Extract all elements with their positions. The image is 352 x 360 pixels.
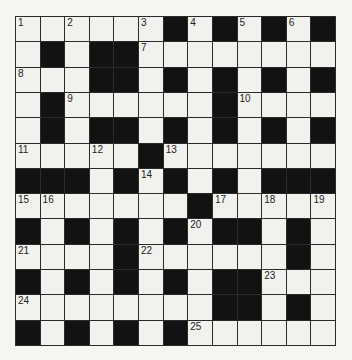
grid-cell[interactable]	[188, 93, 212, 117]
grid-cell[interactable]	[262, 295, 286, 319]
grid-cell[interactable]: 22	[139, 245, 163, 269]
grid-cell[interactable]	[188, 144, 212, 168]
grid-cell[interactable]: 13	[164, 144, 188, 168]
grid-cell[interactable]	[287, 118, 311, 142]
grid-cell[interactable]	[287, 144, 311, 168]
grid-cell[interactable]	[65, 144, 89, 168]
grid-cell[interactable]	[114, 144, 138, 168]
grid-cell[interactable]	[287, 321, 311, 345]
grid-cell[interactable]: 10	[238, 93, 262, 117]
grid-cell[interactable]	[41, 68, 65, 92]
grid-cell[interactable]	[262, 144, 286, 168]
grid-cell[interactable]	[114, 17, 138, 41]
grid-cell[interactable]	[65, 42, 89, 66]
grid-cell[interactable]	[262, 245, 286, 269]
grid-cell[interactable]	[164, 295, 188, 319]
grid-cell[interactable]: 16	[41, 194, 65, 218]
grid-cell[interactable]	[311, 93, 335, 117]
grid-cell[interactable]: 3	[139, 17, 163, 41]
grid-cell[interactable]	[139, 321, 163, 345]
grid-cell[interactable]: 6	[287, 17, 311, 41]
grid-cell[interactable]	[164, 42, 188, 66]
grid-cell[interactable]	[90, 295, 114, 319]
grid-cell[interactable]: 1	[16, 17, 40, 41]
grid-cell[interactable]	[188, 68, 212, 92]
grid-cell[interactable]	[41, 295, 65, 319]
grid-cell[interactable]	[287, 68, 311, 92]
grid-cell[interactable]: 23	[262, 270, 286, 294]
grid-cell[interactable]	[238, 118, 262, 142]
grid-cell[interactable]	[213, 321, 237, 345]
grid-cell[interactable]	[139, 118, 163, 142]
grid-cell[interactable]	[188, 42, 212, 66]
grid-cell[interactable]	[262, 219, 286, 243]
grid-cell[interactable]	[65, 245, 89, 269]
grid-cell[interactable]	[16, 93, 40, 117]
grid-cell[interactable]	[213, 144, 237, 168]
grid-cell[interactable]	[188, 270, 212, 294]
grid-cell[interactable]	[238, 144, 262, 168]
grid-cell[interactable]	[262, 42, 286, 66]
grid-cell[interactable]	[16, 42, 40, 66]
grid-cell[interactable]: 14	[139, 169, 163, 193]
grid-cell[interactable]: 24	[16, 295, 40, 319]
grid-cell[interactable]	[311, 270, 335, 294]
grid-cell[interactable]	[41, 321, 65, 345]
grid-cell[interactable]	[311, 219, 335, 243]
grid-cell[interactable]: 2	[65, 17, 89, 41]
grid-cell[interactable]	[262, 321, 286, 345]
grid-cell[interactable]	[65, 68, 89, 92]
grid-cell[interactable]: 20	[188, 219, 212, 243]
grid-cell[interactable]	[311, 295, 335, 319]
grid-cell[interactable]	[287, 42, 311, 66]
grid-cell[interactable]	[238, 169, 262, 193]
grid-cell[interactable]	[139, 194, 163, 218]
grid-cell[interactable]	[90, 321, 114, 345]
grid-cell[interactable]	[287, 270, 311, 294]
grid-cell[interactable]: 18	[262, 194, 286, 218]
grid-cell[interactable]: 19	[311, 194, 335, 218]
grid-cell[interactable]	[164, 194, 188, 218]
grid-cell[interactable]	[262, 93, 286, 117]
grid-cell[interactable]	[139, 295, 163, 319]
grid-cell[interactable]	[90, 219, 114, 243]
grid-cell[interactable]: 11	[16, 144, 40, 168]
grid-cell[interactable]	[238, 68, 262, 92]
grid-cell[interactable]	[139, 93, 163, 117]
grid-cell[interactable]	[164, 245, 188, 269]
grid-cell[interactable]	[164, 93, 188, 117]
grid-cell[interactable]	[41, 219, 65, 243]
grid-cell[interactable]	[65, 295, 89, 319]
grid-cell[interactable]	[287, 194, 311, 218]
grid-cell[interactable]	[311, 144, 335, 168]
grid-cell[interactable]	[213, 42, 237, 66]
grid-cell[interactable]: 4	[188, 17, 212, 41]
grid-cell[interactable]	[188, 245, 212, 269]
grid-cell[interactable]	[65, 118, 89, 142]
grid-cell[interactable]	[90, 169, 114, 193]
grid-cell[interactable]	[287, 93, 311, 117]
grid-cell[interactable]	[90, 194, 114, 218]
grid-cell[interactable]: 9	[65, 93, 89, 117]
grid-cell[interactable]	[114, 194, 138, 218]
grid-cell[interactable]	[311, 321, 335, 345]
grid-cell[interactable]	[114, 93, 138, 117]
grid-cell[interactable]	[41, 17, 65, 41]
grid-cell[interactable]	[139, 68, 163, 92]
grid-cell[interactable]: 21	[16, 245, 40, 269]
grid-cell[interactable]	[41, 270, 65, 294]
grid-cell[interactable]: 25	[188, 321, 212, 345]
grid-cell[interactable]	[238, 42, 262, 66]
grid-cell[interactable]	[311, 42, 335, 66]
grid-cell[interactable]	[238, 194, 262, 218]
grid-cell[interactable]: 17	[213, 194, 237, 218]
grid-cell[interactable]	[41, 245, 65, 269]
grid-cell[interactable]	[238, 245, 262, 269]
grid-cell[interactable]	[139, 219, 163, 243]
grid-cell[interactable]	[114, 295, 138, 319]
grid-cell[interactable]	[188, 295, 212, 319]
grid-cell[interactable]	[90, 93, 114, 117]
grid-cell[interactable]	[90, 17, 114, 41]
grid-cell[interactable]: 5	[238, 17, 262, 41]
grid-cell[interactable]	[238, 321, 262, 345]
